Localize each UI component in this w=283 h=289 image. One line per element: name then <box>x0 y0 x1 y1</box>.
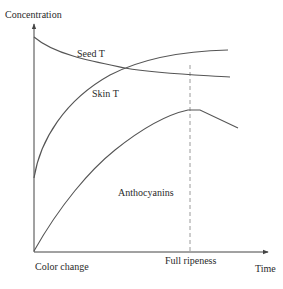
seed-t-curve <box>34 37 230 77</box>
seed-t-label: Seed T <box>77 48 105 59</box>
skin-t-label: Skin T <box>92 88 119 99</box>
x-axis-label: Time <box>255 263 276 274</box>
ripening-diagram: Concentration Seed T Skin T Anthocyanins… <box>0 0 283 289</box>
full-ripeness-label: Full ripeness <box>165 255 216 266</box>
anthocyanins-label: Anthocyanins <box>118 187 174 198</box>
anthocyanins-curve <box>34 110 238 251</box>
color-change-label: Color change <box>35 261 89 272</box>
y-axis-label: Concentration <box>5 9 62 20</box>
